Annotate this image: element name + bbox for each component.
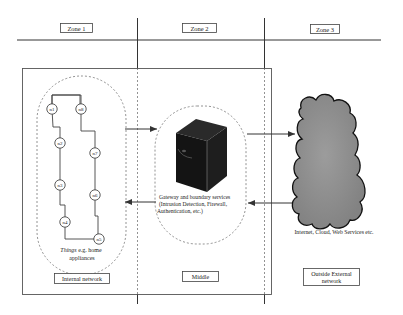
outside-external-network-label: Outside External network [304,269,360,286]
node-n2-label: n2 [58,141,64,146]
gateway-caption-line3: Authentication, etc.) [157,208,203,215]
things-caption-line2: appliances [69,255,95,261]
zone-3-text: Zone 3 [316,26,334,33]
node-n6-label: n6 [93,193,99,198]
internal-network-label: Internal network [55,274,110,284]
node-n3-label: n3 [58,183,64,188]
node-n4: n4 [60,217,70,227]
things-caption-rest: e.g. home [77,247,102,253]
things-caption-italic: Things [60,247,77,253]
node-n3: n3 [55,180,65,190]
middle-label: Middle [183,272,219,282]
things-network-links [52,95,98,239]
network-zone-diagram: Zone 1 Zone 2 Zone 3 n1 n8 n2 n7 n3 n6 n… [0,0,403,315]
node-n1-label: n1 [50,107,56,112]
zone-2-text: Zone 2 [190,25,208,32]
gateway-caption-line1: Gateway and boundary services [159,194,230,200]
node-n4-label: n4 [63,220,69,225]
internal-network-text: Internal network [62,276,102,282]
server-icon [176,119,227,192]
node-n5-label: n5 [97,237,103,242]
node-n7-label: n7 [93,151,99,156]
zone-1-label: Zone 1 [61,24,93,33]
zone-2-label: Zone 2 [183,24,217,33]
things-nodes: n1 n8 n2 n7 n3 n6 n4 n5 [47,104,104,244]
node-n5: n5 [94,234,104,244]
outside-external-text-line1: Outside External [311,271,352,277]
node-n8-label: n8 [79,107,85,112]
internet-cloud-icon [292,94,365,228]
middle-text: Middle [192,274,210,280]
node-n6: n6 [90,190,100,200]
node-n2: n2 [55,138,65,148]
outside-external-text-line2: network [322,278,342,284]
zone-1-text: Zone 1 [67,25,85,32]
zone-3-label: Zone 3 [311,25,340,34]
node-n8: n8 [76,104,86,114]
gateway-caption-line2: (Intrusion Detection, Firewall, [159,201,228,208]
node-n7: n7 [90,148,100,158]
cloud-caption: Internet, Cloud, Web Services etc. [294,229,374,235]
node-n1: n1 [47,104,57,114]
things-caption-line1: Things e.g. home [60,247,102,253]
